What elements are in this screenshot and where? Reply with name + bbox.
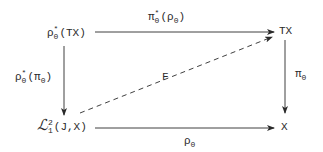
node-bottom-right: X xyxy=(281,122,288,133)
argument: (π xyxy=(27,71,40,83)
symbol-rho: ρ xyxy=(15,71,22,83)
subscript: 0 xyxy=(191,140,196,149)
label-top-arrow: π*0(ρ0) xyxy=(148,9,185,25)
label-right-arrow: π0 xyxy=(295,69,306,80)
paren: ) xyxy=(178,11,185,23)
script-L-symbol: ℒ xyxy=(37,116,48,134)
paren: ) xyxy=(45,71,52,83)
subscript: 0 xyxy=(54,33,59,41)
symbol-pi: π xyxy=(148,11,155,23)
symbol-pi: π xyxy=(295,68,302,80)
subscript: 0 xyxy=(22,77,27,85)
label-bottom-arrow: ρ0 xyxy=(184,136,195,147)
argument: (J,X) xyxy=(54,121,87,133)
symbol-rho: ρ xyxy=(47,27,54,39)
node-label: TX xyxy=(279,25,292,37)
diagonal-dashed-arrow xyxy=(80,37,272,113)
subscript: 0 xyxy=(302,73,307,82)
label-left-arrow: ρ*0(π0) xyxy=(15,69,52,85)
node-bottom-left: ℒ21(J,X) xyxy=(37,118,87,135)
argument: (ρ xyxy=(160,11,173,23)
argument: (TX) xyxy=(59,27,85,39)
subscript: 0 xyxy=(155,17,160,25)
node-top-left: ρ*0(TX) xyxy=(47,25,86,41)
node-label: X xyxy=(281,121,288,133)
node-top-right: TX xyxy=(279,26,292,37)
label-F: F xyxy=(162,71,169,83)
subscript: 1 xyxy=(48,127,53,135)
label-diagonal-arrow: F xyxy=(162,72,169,83)
symbol-rho: ρ xyxy=(184,135,191,147)
